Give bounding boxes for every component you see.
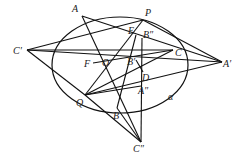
point-label-F: F — [83, 58, 91, 69]
segment-Cp-P — [27, 20, 143, 50]
point-label-Cp: C′ — [13, 45, 23, 56]
point-label-A: A — [71, 3, 79, 14]
point-label-Bp: B′ — [127, 56, 136, 67]
segment-P-Ap — [143, 20, 222, 62]
point-label-C: C — [175, 47, 182, 58]
segment-Cp-Q — [27, 50, 85, 95]
point-label-P: P — [144, 7, 151, 18]
diagram-svg: APEB″C′CA′FOB′DA″QBC″α — [0, 0, 242, 163]
point-label-App: A″ — [137, 85, 149, 96]
segment-E-B — [117, 35, 136, 108]
point-label-Bpp: B″ — [143, 29, 154, 40]
point-label-E: E — [127, 25, 134, 36]
projective-geometry-diagram: APEB″C′CA′FOB′DA″QBC″α — [0, 0, 242, 163]
point-label-D: D — [141, 72, 150, 83]
point-label-Cpp: C″ — [133, 143, 145, 154]
point-label-Ap: A′ — [222, 58, 232, 69]
curve-label-alpha: α — [168, 91, 174, 102]
point-label-O: O — [102, 57, 109, 68]
segment-Cp-Ap — [27, 50, 222, 62]
point-label-B: B — [113, 110, 119, 121]
point-label-Q: Q — [76, 97, 84, 108]
